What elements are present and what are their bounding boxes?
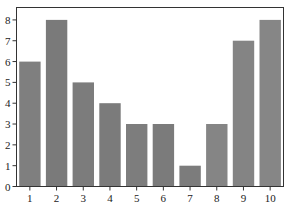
bar-chart: 012345678 12345678910 <box>0 0 285 211</box>
y-tick-label: 1 <box>5 160 11 172</box>
y-tick-label: 4 <box>5 97 11 109</box>
y-tick-label: 0 <box>5 181 11 193</box>
x-axis: 12345678910 <box>27 187 276 204</box>
x-tick-label: 4 <box>107 192 113 204</box>
y-tick-label: 7 <box>5 35 11 47</box>
x-tick-label: 5 <box>134 192 140 204</box>
x-tick-label: 1 <box>27 192 33 204</box>
x-tick-label: 10 <box>265 192 277 204</box>
bar-10 <box>260 20 281 187</box>
bar-6 <box>153 124 174 187</box>
bars-group <box>19 20 281 187</box>
y-tick-label: 2 <box>5 139 11 151</box>
y-tick-label: 3 <box>5 118 11 130</box>
x-tick-label: 8 <box>214 192 220 204</box>
x-tick-label: 2 <box>54 192 60 204</box>
y-tick-label: 8 <box>5 14 11 26</box>
bar-1 <box>19 62 40 187</box>
x-tick-label: 3 <box>81 192 87 204</box>
bar-2 <box>46 20 67 187</box>
bar-7 <box>179 166 200 187</box>
bar-3 <box>73 82 94 186</box>
bar-5 <box>126 124 147 187</box>
x-tick-label: 7 <box>187 192 193 204</box>
bar-4 <box>99 103 120 186</box>
y-tick-label: 5 <box>5 76 11 88</box>
x-tick-label: 6 <box>161 192 167 204</box>
x-tick-label: 9 <box>241 192 247 204</box>
bar-8 <box>206 124 227 187</box>
bar-9 <box>233 41 254 187</box>
y-tick-label: 6 <box>5 56 11 68</box>
y-axis: 012345678 <box>5 14 17 193</box>
